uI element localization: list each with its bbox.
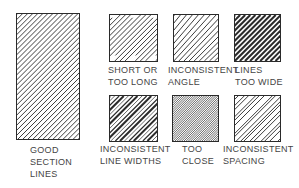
inconsistent-spacing-box xyxy=(234,95,281,142)
good-section-lines-box xyxy=(16,13,80,140)
inconsistent-line-widths-box xyxy=(109,95,158,142)
good-section-lines-label: GOOD SECTION LINES xyxy=(30,144,72,180)
hatch-close xyxy=(173,96,218,141)
lines-too-wide-box xyxy=(234,14,281,62)
too-close-label: TOO CLOSE xyxy=(182,143,214,167)
hatch-angle xyxy=(174,15,218,61)
inconsistent-angle-box xyxy=(173,14,219,62)
lines-too-wide-label: LINES TOO WIDE xyxy=(235,64,283,88)
short-or-too-long-label: SHORT OR TOO LONG xyxy=(108,64,158,88)
inconsistent-spacing-label: INCONSISTENT SPACING xyxy=(223,143,294,167)
hatch-spacing xyxy=(235,96,280,141)
hatch-short-long xyxy=(110,15,157,61)
hatch-widths xyxy=(110,96,157,141)
inconsistent-angle-label: INCONSISTENT ANGLE xyxy=(168,64,239,88)
short-or-too-long-box xyxy=(109,14,158,62)
hatch-wide xyxy=(235,15,280,61)
inconsistent-line-widths-label: INCONSISTENT LINE WIDTHS xyxy=(100,143,171,167)
hatch-good xyxy=(17,14,79,139)
too-close-box xyxy=(172,95,219,142)
